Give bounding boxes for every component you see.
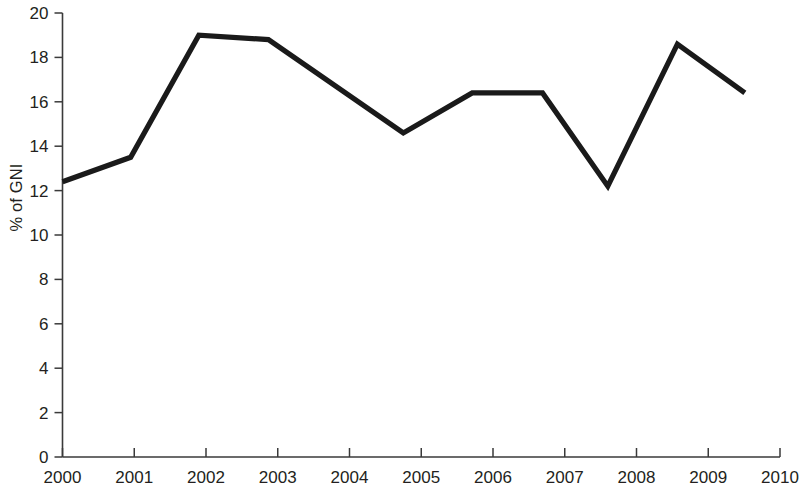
- y-axis-tick-label: 0: [39, 448, 48, 467]
- y-axis-tick-label: 10: [30, 226, 49, 245]
- y-axis-tick-label: 6: [39, 315, 48, 334]
- data-series-line: [63, 35, 745, 186]
- y-axis-tick-label: 16: [30, 93, 49, 112]
- chart-container: % of GNI 02468101214161820 2000200120022…: [0, 0, 802, 493]
- x-axis-tick-label: 2004: [331, 468, 369, 487]
- y-axis-tick-label: 20: [30, 4, 49, 23]
- x-axis-tick-label: 2008: [618, 468, 656, 487]
- y-axis-tick-group: 02468101214161820: [30, 4, 63, 467]
- y-axis-tick-label: 18: [30, 48, 49, 67]
- x-axis-tick-label: 2001: [115, 468, 153, 487]
- x-axis-tick-label: 2009: [689, 468, 727, 487]
- y-axis-tick-label: 8: [39, 270, 48, 289]
- x-axis-tick-label: 2007: [546, 468, 584, 487]
- y-axis-tick-label: 14: [30, 137, 49, 156]
- x-axis-tick-label: 2003: [259, 468, 297, 487]
- x-axis-tick-label: 2005: [402, 468, 440, 487]
- x-axis-tick-label: 2010: [761, 468, 799, 487]
- y-axis-tick-label: 4: [39, 359, 48, 378]
- y-axis-tick-label: 2: [39, 404, 48, 423]
- line-chart-plot: 02468101214161820 2000200120022003200420…: [0, 0, 802, 493]
- y-axis-tick-label: 12: [30, 182, 49, 201]
- x-axis-tick-label: 2006: [474, 468, 512, 487]
- x-axis-tick-label: 2002: [187, 468, 225, 487]
- x-axis-tick-label: 2000: [44, 468, 82, 487]
- x-axis-tick-group: 2000200120022003200420052006200720082009…: [44, 448, 799, 487]
